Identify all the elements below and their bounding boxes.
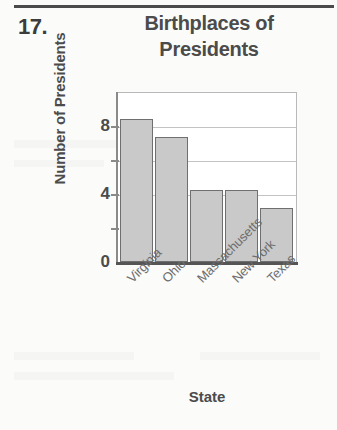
chart-title: Birthplaces of Presidents: [104, 10, 314, 62]
y-tick-label-0: 0: [82, 252, 110, 272]
bar-virginia: [120, 119, 153, 262]
chart-title-line-2: Presidents: [104, 36, 314, 62]
scan-bleed: [14, 352, 134, 360]
bars-layer: [118, 92, 297, 262]
y-tick-label-4: 4: [82, 184, 110, 204]
scan-bleed: [200, 352, 320, 360]
y-axis-title: Number of Presidents: [51, 21, 68, 196]
worksheet-page: 17. Birthplaces of Presidents Number of …: [0, 0, 337, 430]
header-divider: [14, 5, 334, 8]
y-tick-label-8: 8: [82, 116, 110, 136]
bar-ohio: [155, 137, 188, 262]
x-axis-title: State: [117, 388, 297, 405]
item-number: 17.: [18, 14, 47, 40]
scan-bleed: [14, 372, 174, 380]
chart-title-line-1: Birthplaces of: [104, 10, 314, 36]
